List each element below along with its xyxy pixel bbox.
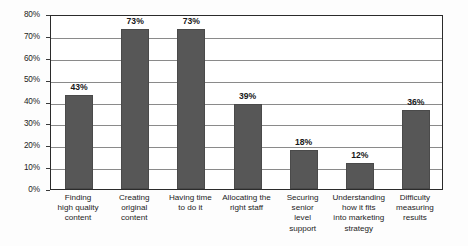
bar-chart: 0%10%20%30%40%50%60%70%80% 43%73%73%39%1… — [0, 0, 468, 246]
x-axis-category-label-line: results — [380, 213, 450, 223]
y-axis: 0%10%20%30%40%50%60%70%80% — [0, 0, 46, 246]
bar-value-label: 43% — [51, 83, 107, 92]
y-axis-tick-label: 20% — [24, 142, 40, 150]
bar-value-label: 18% — [276, 138, 332, 147]
bars-layer: 43%73%73%39%18%12%36% — [51, 16, 442, 189]
bar[interactable] — [177, 29, 205, 189]
x-axis-category-label-line: measuring — [380, 203, 450, 213]
y-axis-tick-label: 30% — [24, 120, 40, 128]
bar-value-label: 12% — [332, 151, 388, 160]
bar-group: 73% — [177, 16, 205, 189]
bar[interactable] — [65, 95, 93, 189]
bar[interactable] — [346, 163, 374, 189]
plot-area: 43%73%73%39%18%12%36% — [50, 15, 443, 190]
bar-group: 73% — [121, 16, 149, 189]
x-axis-category-label-line: strategy — [324, 224, 394, 234]
y-axis-tick-label: 50% — [24, 76, 40, 84]
bar-value-label: 36% — [388, 98, 444, 107]
bar[interactable] — [234, 104, 262, 189]
bar-value-label: 39% — [220, 92, 276, 101]
bar-group: 18% — [290, 16, 318, 189]
y-axis-tick-label: 60% — [24, 55, 40, 63]
x-axis-category-label-line: Difficulty — [380, 193, 450, 203]
bar-value-label: 73% — [107, 17, 163, 26]
x-axis-category-label-line: content — [99, 213, 169, 223]
y-axis-tick-label: 0% — [28, 186, 40, 194]
y-axis-tick-label: 70% — [24, 33, 40, 41]
y-axis-tick-label: 40% — [24, 98, 40, 106]
bar-group: 12% — [346, 16, 374, 189]
x-axis-category-label: Difficultymeasuringresults — [380, 193, 450, 224]
bar-value-label: 73% — [163, 17, 219, 26]
bar-group: 39% — [234, 16, 262, 189]
bar[interactable] — [121, 29, 149, 189]
bar[interactable] — [290, 150, 318, 189]
y-axis-tick-mark — [46, 190, 50, 191]
bar-group: 43% — [65, 16, 93, 189]
y-axis-tick-label: 80% — [24, 11, 40, 19]
x-axis-labels: Findinghigh qualitycontentCreatingorigin… — [50, 193, 443, 245]
bar[interactable] — [402, 110, 430, 189]
y-axis-tick-label: 10% — [24, 164, 40, 172]
bar-group: 36% — [402, 16, 430, 189]
